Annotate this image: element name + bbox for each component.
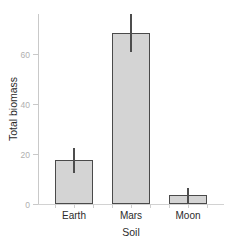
x-tick-label-earth: Earth: [62, 210, 86, 221]
error-bar-earth-whisker: [73, 148, 75, 173]
y-tick-label-20: 20: [21, 150, 30, 160]
x-tick-earth-right: [93, 204, 94, 208]
plot-area: 0 20 40 60: [38, 14, 224, 204]
bar-chart-figure: Total biomass 0 20 40 60: [0, 0, 230, 246]
x-tick-earth-left: [55, 204, 56, 208]
bar-group-mars: [112, 14, 150, 204]
error-bar-moon-whisker: [187, 188, 189, 203]
x-axis-title: Soil: [38, 226, 224, 238]
bar-mars[interactable]: [112, 33, 150, 204]
x-tick-earth: [74, 204, 75, 208]
x-tick-moon: [188, 204, 189, 208]
y-tick-20: 20: [33, 154, 38, 155]
y-tick-0: 0: [33, 204, 38, 205]
y-tick-40: 40: [33, 104, 38, 105]
x-tick-label-mars: Mars: [120, 210, 142, 221]
y-tick-label-60: 60: [21, 50, 30, 60]
y-axis-title-label: Total biomass: [7, 77, 19, 141]
x-tick-label-moon: Moon: [175, 210, 200, 221]
y-tick-label-0: 0: [25, 200, 30, 210]
bar-group-moon: [169, 14, 207, 204]
x-tick-moon-right: [207, 204, 208, 208]
x-tick-mars-left: [112, 204, 113, 208]
x-tick-mars: [131, 204, 132, 208]
error-bar-mars-whisker: [130, 14, 132, 52]
bar-group-earth: [55, 14, 93, 204]
y-axis-line: [38, 14, 39, 204]
x-tick-mars-right: [150, 204, 151, 208]
y-tick-label-40: 40: [21, 100, 30, 110]
y-tick-60: 60: [33, 54, 38, 55]
x-tick-moon-left: [169, 204, 170, 208]
